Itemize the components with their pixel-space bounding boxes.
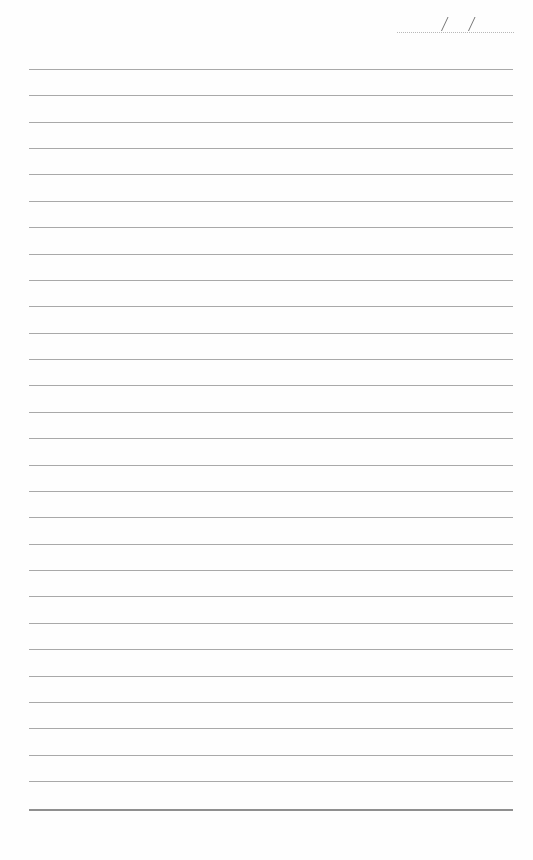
ruled-line: [29, 491, 513, 492]
ruled-line: [29, 517, 513, 518]
ruled-line: [29, 280, 513, 281]
ruled-line: [29, 201, 513, 202]
ruled-line: [29, 544, 513, 545]
ruled-line: [29, 333, 513, 334]
ruled-line: [29, 649, 513, 650]
ruled-line: [29, 122, 513, 123]
ruled-line: [29, 306, 513, 307]
ruled-line: [29, 781, 513, 782]
ruled-line: [29, 702, 513, 703]
ruled-line: [29, 412, 513, 413]
ruled-line: [29, 69, 513, 70]
ruled-line: [29, 465, 513, 466]
ruled-line: [29, 623, 513, 624]
ruled-line: [29, 227, 513, 228]
ruled-line: [29, 570, 513, 571]
ruled-line: [29, 148, 513, 149]
ruled-line: [29, 254, 513, 255]
ruled-line: [29, 438, 513, 439]
ruled-line: [29, 95, 513, 96]
ruled-line: [29, 596, 513, 597]
ruled-writing-area[interactable]: [29, 0, 513, 860]
bottom-bold-rule: [29, 809, 513, 811]
ruled-line: [29, 676, 513, 677]
ruled-line: [29, 728, 513, 729]
ruled-line: [29, 174, 513, 175]
ruled-line: [29, 359, 513, 360]
ruled-line: [29, 755, 513, 756]
ruled-line: [29, 385, 513, 386]
